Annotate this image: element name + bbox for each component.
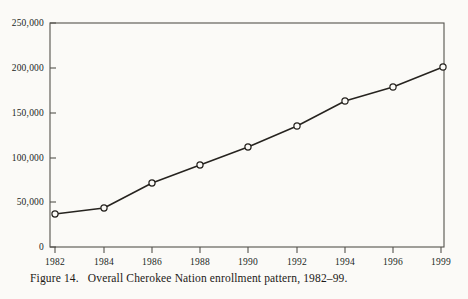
x-tick-label-1990: 1990	[238, 257, 258, 267]
enrollment-series-line	[55, 67, 443, 214]
x-tick-label-1999: 1999	[431, 257, 451, 267]
figure-caption-text: Overall Cherokee Nation enrollment patte…	[88, 272, 348, 284]
x-axis-ticks	[55, 247, 441, 253]
y-tick-label-0: 0	[0, 242, 44, 252]
x-tick-label-1994: 1994	[335, 257, 355, 267]
line-chart-plot	[0, 0, 468, 268]
x-tick-label-1992: 1992	[287, 257, 307, 267]
data-point-1982	[52, 211, 58, 217]
data-point-1984	[101, 205, 107, 211]
x-tick-label-1996: 1996	[383, 257, 403, 267]
y-tick-label-100000: 100,000	[0, 153, 44, 163]
y-tick-label-250000: 250,000	[0, 18, 44, 28]
plot-frame	[50, 23, 444, 247]
data-point-markers	[52, 64, 446, 217]
figure-caption: Figure 14.Overall Cherokee Nation enroll…	[30, 272, 440, 284]
x-tick-label-1982: 1982	[45, 257, 65, 267]
data-point-1996	[390, 84, 396, 90]
data-point-1988	[197, 162, 203, 168]
figure-caption-label: Figure 14.	[30, 272, 79, 284]
y-tick-label-200000: 200,000	[0, 63, 44, 73]
chart-figure: 250,000 200,000 150,000 100,000 50,000 0…	[0, 0, 468, 268]
figure-page: 250,000 200,000 150,000 100,000 50,000 0…	[0, 0, 468, 299]
x-tick-label-1986: 1986	[142, 257, 162, 267]
data-point-1992	[294, 123, 300, 129]
data-point-1999	[440, 64, 446, 70]
data-point-1990	[245, 144, 251, 150]
x-tick-label-1988: 1988	[190, 257, 210, 267]
data-point-1986	[149, 180, 155, 186]
y-tick-label-50000: 50,000	[0, 197, 44, 207]
data-point-1994	[342, 98, 348, 104]
y-tick-label-150000: 150,000	[0, 108, 44, 118]
x-tick-label-1984: 1984	[94, 257, 114, 267]
